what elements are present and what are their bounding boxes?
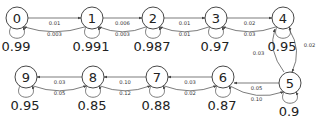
state-label: 4 <box>279 11 287 26</box>
state-label: 6 <box>219 70 227 85</box>
edge-7-to-6: 0.02 <box>164 86 217 96</box>
edge-6-to-7: 0.03 <box>168 77 212 85</box>
edge-probability-label: 0.03 <box>253 50 265 56</box>
edge-3-to-4: 0.02 <box>227 18 272 26</box>
state-label: 0 <box>13 11 21 26</box>
self-loop-probability-label: 0.87 <box>208 98 237 113</box>
edge-probability-label: 0.03 <box>184 79 196 85</box>
state-label: 2 <box>149 11 157 26</box>
edge-probability-label: 0.02 <box>304 42 316 48</box>
edge-2-to-3: 0.01 <box>164 18 205 26</box>
state-node-9: 90.95 <box>11 66 40 113</box>
edge-probability-label: 0.003 <box>115 31 130 37</box>
edge-probability-label: 0.03 <box>244 31 256 37</box>
edge-probability-label: 0.01 <box>179 31 191 37</box>
edge-probability-label: 0.02 <box>244 20 256 26</box>
edge-probability-label: 0.05 <box>54 90 66 96</box>
markov-chain-diagram: 0.010.0030.0060.0030.010.010.020.030.020… <box>0 0 327 120</box>
edge-4-to-3: 0.03 <box>223 27 277 37</box>
edge-probability-label: 0.01 <box>179 20 191 26</box>
state-label: 1 <box>88 11 96 26</box>
self-loop-probability-label: 0.991 <box>72 39 109 54</box>
state-node-4: 40.95 <box>268 7 297 54</box>
self-loop-probability-label: 0.987 <box>133 39 170 54</box>
state-label: 5 <box>286 76 294 91</box>
state-node-5: 50.9 <box>279 72 301 119</box>
state-node-3: 30.97 <box>201 7 230 54</box>
edge-probability-label: 0.01 <box>49 20 61 26</box>
self-loop-probability-label: 0.9 <box>279 104 300 119</box>
edge-1-to-0: 0.003 <box>24 27 86 37</box>
state-label: 8 <box>89 70 97 85</box>
state-node-0: 00.99 <box>2 7 31 54</box>
edge-2-to-1: 0.003 <box>99 27 147 37</box>
state-node-8: 80.85 <box>78 66 107 113</box>
edge-probability-label: 0.003 <box>47 31 62 37</box>
edges: 0.010.0030.0060.0030.010.010.020.030.020… <box>24 18 316 102</box>
edge-7-to-8: 0.10 <box>104 77 146 85</box>
edge-0-to-1: 0.01 <box>28 18 81 26</box>
state-label: 9 <box>22 70 30 85</box>
self-loop-probability-label: 0.97 <box>201 39 230 54</box>
self-loop-probability-label: 0.88 <box>142 98 171 113</box>
self-loop-probability-label: 0.95 <box>11 98 40 113</box>
state-node-7: 70.88 <box>142 66 171 113</box>
edge-9-to-8: 0.05 <box>33 86 87 96</box>
edge-8-to-9: 0.03 <box>37 77 82 85</box>
state-node-6: 60.87 <box>208 66 237 113</box>
edge-probability-label: 0.10 <box>251 96 263 102</box>
self-loop-probability-label: 0.85 <box>78 98 107 113</box>
edge-probability-label: 0.10 <box>119 79 131 85</box>
edge-probability-label: 0.05 <box>251 85 263 91</box>
state-label: 3 <box>212 11 220 26</box>
edge-1-to-2: 0.006 <box>103 18 142 26</box>
self-loop-probability-label: 0.99 <box>2 39 31 54</box>
state-node-1: 10.991 <box>72 7 109 54</box>
edge-3-to-2: 0.01 <box>160 27 210 37</box>
edge-5-to-6: 0.05 <box>234 83 279 91</box>
edge-probability-label: 0.006 <box>115 20 130 26</box>
edge-probability-label: 0.03 <box>54 79 66 85</box>
state-label: 7 <box>153 70 161 85</box>
edge-probability-label: 0.02 <box>184 90 196 96</box>
state-node-2: 20.987 <box>133 7 170 54</box>
edge-8-to-7: 0.12 <box>100 86 151 96</box>
self-loop-probability-label: 0.95 <box>268 39 297 54</box>
edge-probability-label: 0.12 <box>119 90 131 96</box>
